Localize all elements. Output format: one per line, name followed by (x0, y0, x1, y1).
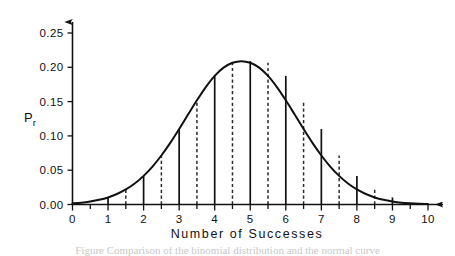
y-axis-title-subscript: r (33, 117, 36, 128)
y-tick-label: 0.00 (40, 199, 64, 211)
y-tick-label: 0.20 (40, 61, 64, 73)
x-tick-label: 8 (354, 213, 361, 225)
solid-ordinates-group (108, 61, 392, 204)
x-tick-label: 10 (421, 213, 435, 225)
x-tick-label: 3 (176, 213, 183, 225)
x-tick-label: 4 (211, 213, 218, 225)
x-tick-label: 9 (389, 213, 396, 225)
x-axis-title: Number of Successes (171, 227, 324, 241)
y-tick-label: 0.25 (40, 27, 64, 39)
x-tick-label: 7 (318, 213, 325, 225)
x-tick-label: 5 (247, 213, 254, 225)
x-tick-label: 0 (69, 213, 76, 225)
plot-area: 0.000.050.100.150.200.25 012345678910 Nu… (0, 0, 455, 256)
y-axis-title-main: P (24, 110, 33, 125)
x-tick-label: 6 (282, 213, 289, 225)
y-axis-title: Pr (24, 110, 36, 128)
x-tick-label: 1 (105, 213, 112, 225)
x-axis-tick-labels-group: 012345678910 (69, 213, 435, 225)
y-tick-label: 0.05 (40, 164, 64, 176)
y-tick-label: 0.15 (40, 96, 64, 108)
x-axis-ticks-group (73, 205, 429, 211)
x-tick-label: 2 (140, 213, 147, 225)
y-axis-tick-labels-group: 0.000.050.100.150.200.25 (40, 27, 64, 211)
y-tick-label: 0.10 (40, 130, 64, 142)
binomial-normal-curve-figure: 0.000.050.100.150.200.25 012345678910 Nu… (0, 0, 455, 256)
